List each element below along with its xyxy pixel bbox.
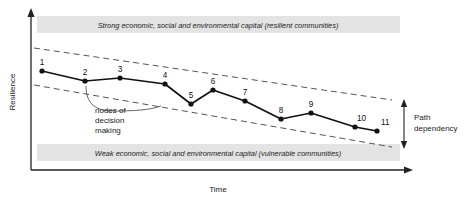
y-axis-label: Resilience — [8, 73, 17, 110]
nodes-note-line-2: decision — [95, 116, 124, 125]
data-point-label: 2 — [83, 68, 88, 77]
data-point-node — [278, 116, 283, 121]
data-point-label: 10 — [357, 114, 367, 123]
trajectory-node-group — [39, 68, 379, 133]
x-axis-label: Time — [209, 185, 227, 194]
path-dependency-arrowhead-top — [401, 99, 407, 107]
data-point-label: 11 — [381, 118, 390, 127]
data-point-label: 9 — [309, 100, 314, 109]
envelope-lower-line — [34, 85, 392, 147]
nodes-note-line-1: nodes of — [95, 106, 126, 115]
top-band-label: Strong economic, social and environmenta… — [98, 21, 339, 30]
data-point-node — [308, 110, 313, 115]
data-point-label: 6 — [211, 77, 216, 86]
data-point-label: 7 — [243, 88, 248, 97]
resilience-trajectory-line — [42, 71, 377, 131]
data-point-node — [82, 78, 87, 83]
data-point-node — [117, 75, 122, 80]
data-point-label: 3 — [118, 65, 123, 74]
data-point-node — [162, 81, 167, 86]
data-point-node — [374, 128, 379, 133]
y-axis-arrowhead — [27, 8, 34, 17]
data-point-node — [352, 124, 357, 129]
data-point-label: 8 — [279, 106, 284, 115]
data-point-node — [210, 87, 215, 92]
data-point-label: 4 — [163, 71, 168, 80]
data-point-node — [188, 101, 193, 106]
path-dependency-label-line-1: Path — [414, 113, 430, 122]
data-point-label: 5 — [189, 91, 194, 100]
path-dependency-annotation: Path dependency — [401, 99, 458, 149]
x-axis-arrowhead — [404, 166, 413, 173]
diagram-canvas: Strong economic, social and environmenta… — [0, 0, 464, 199]
path-dependency-label-line-2: dependency — [414, 124, 458, 133]
nodes-note-line-3: making — [95, 126, 121, 135]
data-point-label: 1 — [40, 58, 45, 67]
data-point-node — [242, 98, 247, 103]
bottom-band-label: Weak economic, social and environmental … — [95, 149, 342, 158]
resilience-path-dependency-diagram: Strong economic, social and environmenta… — [0, 0, 464, 199]
nodes-note-callout: nodes of decision making — [86, 86, 161, 135]
path-dependency-arrowhead-bottom — [401, 141, 407, 149]
data-point-node — [39, 68, 44, 73]
